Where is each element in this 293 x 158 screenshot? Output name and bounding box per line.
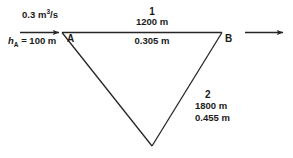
inflow-flow-rate-per-second: /s bbox=[50, 9, 58, 20]
pipe-network-diagram: 0.3 m3/s hA = 100 m A B 1 1200 m 0.305 m… bbox=[0, 0, 293, 158]
inflow-head-label: hA = 100 m bbox=[8, 36, 56, 46]
inflow-flow-rate-label: 0.3 m3/s bbox=[22, 10, 58, 20]
triangle-left-leg bbox=[62, 33, 152, 147]
pipe-2-line bbox=[152, 33, 222, 147]
node-b-label: B bbox=[225, 34, 232, 44]
pipe-1-diameter-label: 0.305 m bbox=[135, 36, 170, 46]
head-value: = 100 m bbox=[19, 35, 57, 46]
pipe-2-id-label: 2 bbox=[205, 90, 211, 100]
pipe-1-length-label: 1200 m bbox=[136, 17, 168, 27]
pipe-2-diameter-label: 0.455 m bbox=[195, 113, 230, 123]
inflow-flow-rate-value: 0.3 bbox=[22, 9, 35, 20]
pipe-2-length-label: 1800 m bbox=[195, 101, 227, 111]
node-a-label: A bbox=[67, 34, 74, 44]
